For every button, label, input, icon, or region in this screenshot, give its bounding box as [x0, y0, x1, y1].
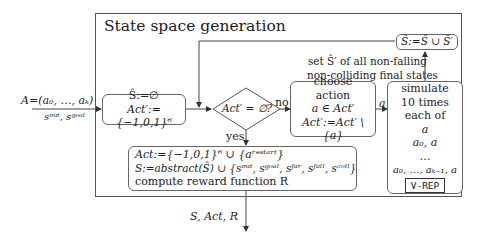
no-branch-label: no [275, 96, 289, 109]
simulate-box: simulate 10 times each of a a₀, a … a₀, … [387, 81, 463, 194]
init-box: Ŝ:=∅ Act′:={−1,0,1}⁶ [102, 94, 186, 125]
simulate-line-5: a₀, a [413, 136, 438, 150]
set-label-line-1: set Ŝ′ of all non-falling [307, 54, 427, 68]
yes-branch-label: yes [226, 130, 244, 143]
final-line-states: S:=abstract(Ŝ) ∪ {sᶦⁿᶦᵗ, sᵍᵒᵃˡ, sᶠᵃʳ, sᶠ… [135, 162, 357, 176]
output-label: S, Act, R [190, 210, 238, 223]
choose-action-box: choose action a ∈ Act′ Act′:=Act′ \ {a} [290, 81, 376, 137]
simulate-line-4: a [422, 123, 429, 137]
simulate-line-1: simulate [401, 82, 449, 96]
choose-line-2: action [316, 89, 350, 103]
simulate-line-2: 10 times [401, 96, 449, 110]
edge-action-label: a [379, 97, 386, 110]
input-action-sequence: A=(a₀, …, aₖ) [21, 94, 93, 107]
final-line-reward: compute reward function R [135, 175, 288, 189]
choose-line-3: a ∈ Act′ [312, 102, 355, 116]
init-action-set: Act′:={−1,0,1}⁶ [103, 103, 185, 130]
choose-line-4: Act′:=Act′ \ {a} [291, 116, 375, 143]
set-final-states-label: set Ŝ′ of all non-falling non-colliding … [307, 54, 427, 82]
decision-label: Act′ = ∅? [222, 102, 272, 114]
final-line-actions: Act:={−1,0,1}⁶ ∪ {aʳᵉˢᵗᵃʳᵗ} [135, 148, 284, 162]
frame-title: State space generation [104, 17, 286, 35]
simulate-line-6: … [420, 150, 431, 164]
input-init-goal-states: sᶦⁿᶦᵗ, sᵍᵒᵃˡ [44, 111, 85, 122]
v-rep-tag: V-REP [405, 178, 446, 193]
set-label-line-2: non-colliding final states [307, 68, 427, 82]
union-box: Ŝ:=Ŝ ∪ Ŝ′ [396, 34, 458, 50]
simulate-line-7: a₀, …, aₖ₋₁, a [393, 163, 457, 177]
final-result-box: Act:={−1,0,1}⁶ ∪ {aʳᵉˢᵗᵃʳᵗ} S:=abstract(… [128, 146, 357, 191]
simulate-line-3: each of [405, 109, 446, 123]
init-state-set: Ŝ:=∅ [129, 89, 159, 103]
